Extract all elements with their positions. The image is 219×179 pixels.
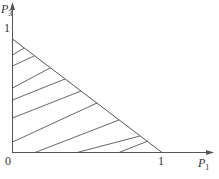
x-arrow-icon [206,150,214,155]
boundary-line [13,39,163,153]
x-axis-label: P1 [198,157,209,172]
x-tick-label: 1 [158,155,164,167]
origin-label: 0 [5,155,11,167]
axes-and-region [0,0,219,179]
y-axis-label: P3 [1,3,12,18]
hatching [13,48,149,153]
diagram: P3 1 0 1 P1 [0,0,219,179]
y-tick-label: 1 [4,22,10,34]
